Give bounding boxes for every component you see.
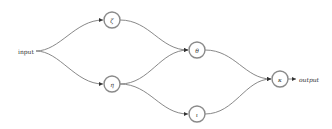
- node-zeta: ζ: [104, 12, 120, 28]
- graph-canvas: input ζ η θ ι κ output: [0, 0, 332, 129]
- node-iota: ι: [189, 106, 205, 122]
- edge-input-zeta: [36, 20, 103, 51]
- output-label: output: [299, 76, 320, 84]
- edge-input-eta: [36, 51, 103, 84]
- edge-eta-theta: [120, 50, 188, 84]
- edge-iota-kappa: [205, 79, 271, 114]
- node-kappa: κ: [272, 71, 288, 87]
- input-label: input: [18, 48, 34, 56]
- node-eta-label: η: [110, 81, 114, 89]
- node-theta-label: θ: [195, 47, 199, 54]
- edge-theta-kappa: [205, 50, 271, 79]
- node-iota-label: ι: [196, 111, 198, 118]
- node-eta: η: [104, 76, 120, 92]
- edge-eta-iota: [120, 84, 188, 114]
- node-kappa-label: κ: [277, 76, 282, 83]
- edge-zeta-theta: [120, 20, 188, 50]
- node-theta: θ: [189, 42, 205, 58]
